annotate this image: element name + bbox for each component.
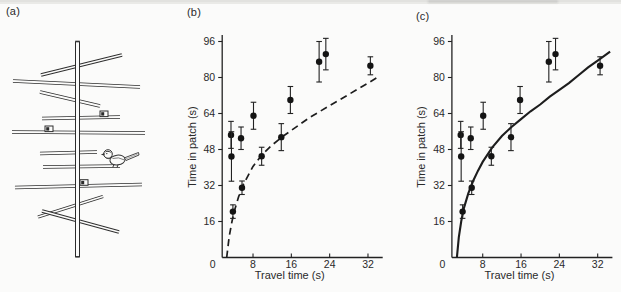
data-point: [488, 153, 494, 159]
data-point: [517, 97, 523, 103]
data-point: [508, 134, 514, 140]
data-point: [597, 63, 603, 69]
data-point: [458, 153, 464, 159]
x-tick-label: 16: [515, 258, 527, 270]
data-point: [469, 185, 475, 191]
data-point: [552, 51, 558, 57]
chart-panel-c: 08162432163248648096Travel time (s)Time …: [0, 0, 621, 292]
y-tick-label: 32: [433, 179, 445, 191]
y-tick-label: 16: [433, 215, 445, 227]
data-point: [480, 113, 486, 119]
y-tick-label: 80: [433, 71, 445, 83]
data-point: [459, 208, 465, 214]
model-curve: [457, 52, 610, 258]
x-tick-label: 32: [592, 258, 604, 270]
figure-canvas: (a) (b) (c): [0, 0, 621, 292]
x-axis-title: Travel time (s): [484, 269, 554, 281]
x-tick-label: 8: [480, 258, 486, 270]
y-tick-label: 64: [433, 107, 445, 119]
y-axis-title: Time in patch (s): [415, 106, 427, 188]
data-point: [468, 135, 474, 141]
y-tick-label: 96: [433, 35, 445, 47]
x-tick-label: 0: [439, 258, 445, 270]
x-tick-label: 24: [554, 258, 566, 270]
y-tick-label: 48: [433, 143, 445, 155]
data-point: [546, 59, 552, 65]
